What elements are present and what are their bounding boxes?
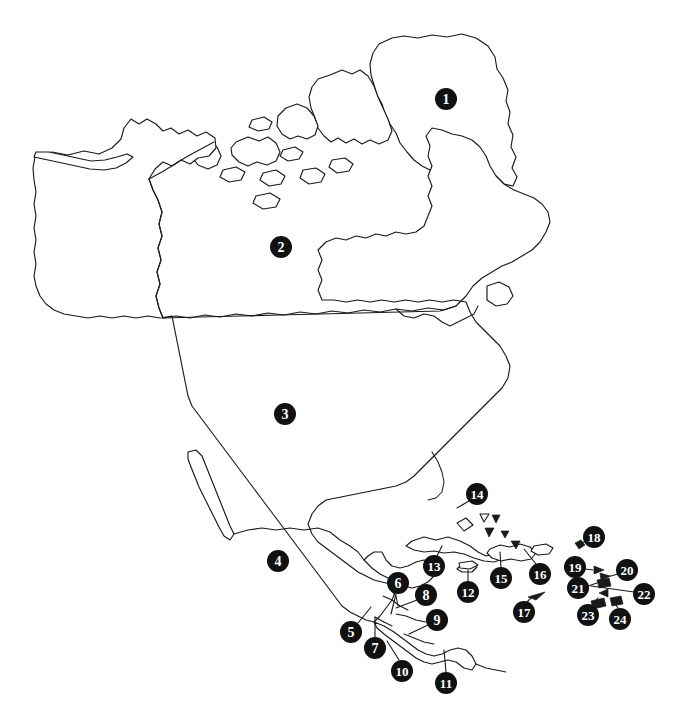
landmass-puerto-rico — [531, 544, 553, 555]
marker-disc-8 — [415, 584, 437, 606]
landmass-arctic-islet-d — [260, 170, 285, 186]
map-marker-16[interactable]: 16 — [529, 563, 551, 585]
map-marker-12[interactable]: 12 — [457, 581, 479, 603]
map-marker-21[interactable]: 21 — [567, 577, 589, 599]
landmass-newfoundland — [487, 282, 513, 306]
islet-triangle-d — [501, 531, 509, 538]
marker-disc-21 — [567, 577, 589, 599]
marker-disc-23 — [577, 604, 599, 626]
leader-line-19 — [585, 569, 593, 570]
landmass-arctic-islet-c — [220, 167, 245, 182]
map-marker-9[interactable]: 9 — [426, 609, 448, 631]
map-marker-4[interactable]: 4 — [267, 550, 289, 572]
landmass-arctic-islet-g — [253, 193, 280, 209]
marker-disc-6 — [387, 572, 409, 594]
marker-disc-12 — [457, 581, 479, 603]
map-marker-5[interactable]: 5 — [340, 621, 362, 643]
landmass-arctic-islet-f — [329, 158, 353, 173]
islet-quad-g — [597, 578, 611, 588]
landmass-arctic-islet-a — [249, 117, 272, 131]
islet-diamond-bahamas — [457, 518, 473, 531]
map-marker-6[interactable]: 6 — [387, 572, 409, 594]
marker-disc-5 — [340, 621, 362, 643]
map-canvas: 123456789101112131415161718192021222324 — [0, 0, 688, 726]
leader-line-14 — [457, 501, 469, 508]
marker-disc-15 — [490, 567, 512, 589]
islet-triangle-i — [599, 589, 608, 597]
landmass-isthmus-lower — [374, 622, 476, 670]
islet-triangle-b — [492, 515, 500, 523]
islet-triangle-a — [480, 514, 489, 522]
marker-disc-22 — [633, 583, 655, 605]
islet-quad-k — [610, 596, 623, 606]
marker-disc-24 — [609, 608, 631, 630]
landmass-hispaniola — [487, 544, 536, 561]
marker-disc-17 — [513, 601, 535, 623]
marker-disc-13 — [423, 555, 445, 577]
marker-disc-3 — [274, 403, 296, 425]
islet-triangle-f — [594, 566, 604, 574]
map-marker-2[interactable]: 2 — [270, 236, 292, 258]
border-guatemala-honduras — [396, 614, 426, 622]
landmass-arctic-islet-e — [300, 168, 325, 184]
leader-line-8 — [396, 600, 417, 608]
landmass-victoria-island — [231, 137, 280, 166]
marker-disc-20 — [616, 559, 638, 581]
leader-line-22 — [591, 586, 634, 592]
map-marker-17[interactable]: 17 — [513, 601, 535, 623]
map-marker-11[interactable]: 11 — [435, 672, 457, 694]
marker-disc-14 — [466, 483, 488, 505]
map-marker-19[interactable]: 19 — [564, 556, 586, 578]
landmass-north-america-mainland — [33, 119, 550, 622]
map-marker-10[interactable]: 10 — [391, 660, 413, 682]
leader-line-21 — [588, 583, 597, 586]
map-marker-14[interactable]: 14 — [466, 483, 488, 505]
islet-triangle-c — [485, 528, 494, 537]
marker-disc-2 — [270, 236, 292, 258]
coast-south-america-hint — [476, 664, 506, 672]
marker-disc-4 — [267, 550, 289, 572]
marker-disc-19 — [564, 556, 586, 578]
map-marker-13[interactable]: 13 — [423, 555, 445, 577]
marker-disc-16 — [529, 563, 551, 585]
map-marker-23[interactable]: 23 — [577, 604, 599, 626]
map-figure: 123456789101112131415161718192021222324 — [0, 0, 688, 726]
marker-disc-7 — [364, 637, 386, 659]
map-marker-22[interactable]: 22 — [633, 583, 655, 605]
landmass-arctic-islet-b — [280, 147, 303, 161]
map-marker-24[interactable]: 24 — [609, 608, 631, 630]
landmass-baja-california — [188, 450, 234, 540]
leader-line-9 — [409, 625, 428, 634]
map-marker-1[interactable]: 1 — [435, 88, 457, 110]
map-marker-3[interactable]: 3 — [274, 403, 296, 425]
map-marker-18[interactable]: 18 — [583, 526, 605, 548]
marker-disc-1 — [435, 88, 457, 110]
map-marker-15[interactable]: 15 — [490, 567, 512, 589]
marker-disc-10 — [391, 660, 413, 682]
map-marker-20[interactable]: 20 — [616, 559, 638, 581]
marker-disc-9 — [426, 609, 448, 631]
map-marker-8[interactable]: 8 — [415, 584, 437, 606]
marker-disc-11 — [435, 672, 457, 694]
marker-disc-18 — [583, 526, 605, 548]
map-marker-7[interactable]: 7 — [364, 637, 386, 659]
